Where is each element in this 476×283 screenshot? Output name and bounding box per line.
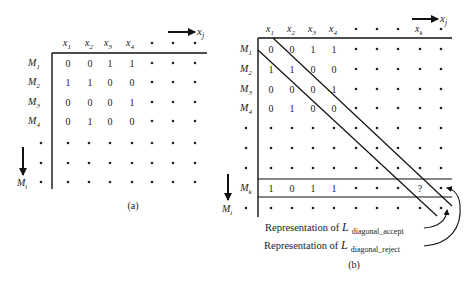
svg-text:1: 1	[290, 64, 295, 75]
caption-b: (b)	[348, 259, 360, 271]
svg-text:M1: M1	[239, 43, 252, 57]
svg-text:1: 1	[130, 58, 135, 69]
svg-text:0: 0	[66, 116, 71, 127]
row-labels: M1 M2 M3 M4 Mk	[239, 43, 253, 209]
svg-text:Mi: Mi	[221, 203, 232, 217]
svg-text:x4: x4	[125, 37, 134, 51]
svg-text:0: 0	[269, 103, 274, 114]
column-headers: x1 x2 x3 x4	[62, 37, 196, 51]
svg-text:1: 1	[108, 58, 113, 69]
svg-text:Mk: Mk	[239, 182, 252, 196]
svg-text:0: 0	[88, 97, 93, 108]
svg-text:x3: x3	[103, 37, 112, 51]
svg-text:0: 0	[311, 84, 316, 95]
row-labels: M1 M2 M3 M4	[27, 57, 42, 183]
svg-text:xk: xk	[414, 23, 423, 37]
figure-b: xj x1 x2 x3 x4 xk M1 M2 M3 M4 M	[221, 12, 460, 271]
svg-text:x1: x1	[62, 37, 71, 51]
diagonal-reject-line	[273, 38, 452, 206]
svg-text:x1: x1	[265, 23, 274, 37]
svg-text:M3: M3	[239, 83, 252, 97]
svg-text:0: 0	[290, 84, 295, 95]
svg-text:Mi: Mi	[16, 177, 27, 191]
svg-text:0: 0	[108, 77, 113, 88]
svg-text:1: 1	[332, 84, 337, 95]
svg-text:x2: x2	[286, 23, 295, 37]
svg-text:1: 1	[88, 116, 93, 127]
figure-a: xj x1 x2 x3 x4 M1 M2 M3 M4 Mi	[16, 25, 207, 212]
caption-a: (a)	[127, 200, 138, 212]
svg-text:0: 0	[332, 64, 337, 75]
column-headers: x1 x2 x3 x4 xk	[265, 23, 442, 37]
ellipsis-dots	[270, 48, 443, 210]
svg-text:0: 0	[66, 58, 71, 69]
svg-text:M1: M1	[27, 57, 40, 71]
svg-text:0: 0	[311, 103, 316, 114]
svg-text:1: 1	[311, 183, 316, 194]
matrix-values: 0 0 1 1 1 1 0 0 0 0 0 1 0 1 0 0	[66, 58, 135, 127]
svg-text:0: 0	[311, 64, 316, 75]
svg-text:1: 1	[311, 44, 316, 55]
svg-text:0: 0	[66, 97, 71, 108]
svg-text:xj: xj	[196, 25, 205, 40]
svg-text:M4: M4	[27, 115, 40, 129]
svg-text:Representation of Ldiagonal_re: Representation of Ldiagonal_reject	[264, 238, 401, 254]
svg-text:1: 1	[332, 183, 337, 194]
svg-text:0: 0	[130, 77, 135, 88]
svg-text:0: 0	[108, 97, 113, 108]
svg-text:0: 0	[332, 103, 337, 114]
svg-text:0: 0	[269, 84, 274, 95]
unknown-cell: ?	[418, 183, 423, 194]
svg-text:1: 1	[332, 44, 337, 55]
svg-text:0: 0	[88, 58, 93, 69]
svg-text:1: 1	[66, 77, 71, 88]
svg-text:1: 1	[88, 77, 93, 88]
annotation-accept: Representation of Ldiagonal_accept	[265, 210, 447, 236]
svg-text:1: 1	[130, 97, 135, 108]
svg-text:M2: M2	[27, 76, 40, 90]
svg-text:Representation of Ldiagonal_ac: Representation of Ldiagonal_accept	[265, 220, 404, 236]
annotation-reject: Representation of Ldiagonal_reject	[264, 188, 460, 254]
svg-text:1: 1	[290, 103, 295, 114]
svg-text:M3: M3	[27, 96, 40, 110]
svg-text:M2: M2	[239, 63, 252, 77]
svg-text:1: 1	[269, 64, 274, 75]
diagonal-accept-line	[258, 50, 437, 216]
matrix-values: 0 0 1 1 1 1 0 0 0 0 0 1 0 1 0 0 1 0 1 1 …	[269, 44, 423, 194]
svg-text:0: 0	[290, 44, 295, 55]
diagonalization-figure: xj x1 x2 x3 x4 M1 M2 M3 M4 Mi	[0, 0, 476, 283]
svg-text:M4: M4	[239, 102, 252, 116]
svg-text:0: 0	[130, 116, 135, 127]
svg-text:x4: x4	[328, 23, 337, 37]
svg-text:0: 0	[269, 44, 274, 55]
svg-text:x2: x2	[84, 37, 93, 51]
svg-text:xj: xj	[439, 12, 448, 27]
svg-text:0: 0	[108, 116, 113, 127]
svg-text:1: 1	[269, 183, 274, 194]
curved-arrow-icon	[424, 210, 447, 228]
svg-text:x3: x3	[307, 23, 316, 37]
svg-text:0: 0	[290, 183, 295, 194]
